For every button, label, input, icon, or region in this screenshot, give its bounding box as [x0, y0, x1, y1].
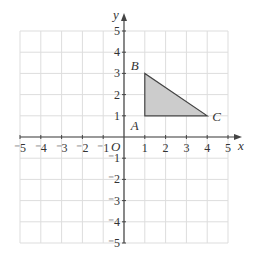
- y-tick-label: ⁻2: [108, 172, 120, 186]
- y-tick-label: 3: [114, 66, 120, 80]
- vertex-label-a: A: [130, 118, 139, 133]
- x-tick-label: ⁻3: [56, 141, 68, 155]
- x-tick-label: 5: [225, 141, 231, 155]
- x-tick-label: ⁻4: [35, 141, 47, 155]
- y-tick-label: ⁻5: [108, 236, 120, 250]
- y-tick-label: 5: [114, 24, 120, 38]
- x-tick-label: 1: [142, 141, 148, 155]
- x-tick-label: ⁻5: [14, 141, 26, 155]
- y-tick-label: 2: [114, 88, 120, 102]
- coordinate-grid: xyO⁻5⁻4⁻3⁻2⁻11234554321⁻1⁻2⁻3⁻4⁻5 ABC: [0, 0, 255, 263]
- y-tick-label: 4: [114, 45, 120, 59]
- vertex-label-c: C: [212, 109, 221, 124]
- x-tick-label: 4: [204, 141, 210, 155]
- x-tick-label: ⁻2: [76, 141, 88, 155]
- y-tick-label: 1: [114, 109, 120, 123]
- y-axis-arrow-icon: [121, 13, 127, 21]
- y-tick-label: ⁻1: [108, 151, 120, 165]
- vertex-label-b: B: [131, 58, 139, 73]
- tick-labels: xyO⁻5⁻4⁻3⁻2⁻11234554321⁻1⁻2⁻3⁻4⁻5: [14, 7, 244, 250]
- x-tick-label: 2: [163, 141, 169, 155]
- x-axis-label: x: [237, 138, 244, 153]
- y-tick-label: ⁻4: [108, 215, 120, 229]
- y-tick-label: ⁻3: [108, 194, 120, 208]
- y-axis-label: y: [111, 7, 119, 22]
- x-tick-label: 3: [183, 141, 189, 155]
